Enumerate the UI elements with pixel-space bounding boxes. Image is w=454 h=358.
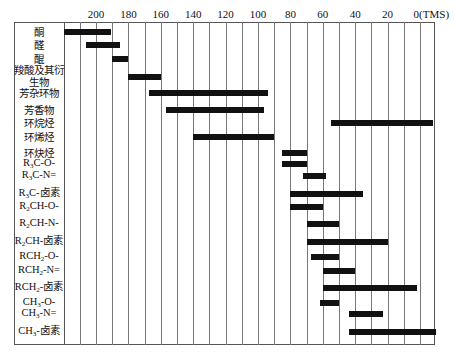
gridline — [112, 22, 113, 345]
category-label: R3C-N= — [14, 169, 64, 184]
gridline — [371, 22, 372, 345]
gridline — [258, 22, 259, 345]
range-bar — [320, 300, 339, 306]
range-bar — [307, 221, 339, 227]
range-bar — [311, 254, 339, 260]
range-bar — [128, 74, 160, 80]
range-bar — [349, 329, 436, 335]
range-bar — [349, 311, 383, 317]
gridline — [128, 22, 129, 345]
range-bar — [323, 285, 417, 291]
category-label: RCH2-卤素 — [14, 281, 64, 296]
gridline — [274, 22, 275, 345]
range-bar — [64, 29, 111, 35]
category-label: 芳香物 — [14, 105, 64, 116]
gridline — [339, 22, 340, 345]
x-tick-label: 60 — [317, 8, 328, 20]
category-label: CH3-卤素 — [14, 325, 64, 340]
gridline — [80, 22, 81, 345]
gridline — [209, 22, 210, 345]
category-label: 芳杂环物 — [14, 88, 64, 99]
gridline — [177, 22, 178, 345]
category-label: 环烷烃 — [14, 118, 64, 129]
gridline — [355, 22, 356, 345]
range-bar — [323, 268, 355, 274]
label-column-divider — [64, 22, 65, 345]
gridline — [420, 22, 421, 345]
range-bar — [166, 107, 265, 113]
x-tick-label: 20 — [382, 8, 393, 20]
x-tick-label: 80 — [285, 8, 296, 20]
gridline — [193, 22, 194, 345]
category-label: RCH2-N= — [14, 264, 64, 279]
x-tick-label: 0(TMS) — [414, 8, 449, 20]
gridline — [242, 22, 243, 345]
range-bar — [282, 150, 306, 156]
gridline — [323, 22, 324, 345]
gridline — [96, 22, 97, 345]
gridline — [145, 22, 146, 345]
category-label: 酮 — [14, 27, 64, 38]
x-tick-label: 200 — [88, 8, 105, 20]
gridline — [404, 22, 405, 345]
gridline — [226, 22, 227, 345]
range-bar — [303, 173, 326, 179]
category-label: R2CH-N- — [14, 217, 64, 232]
x-tick-label: 120 — [217, 8, 234, 20]
chemical-shift-chart: 200180160140120100806040200(TMS) 酮醛醌羧酸及其… — [0, 0, 454, 358]
range-bar — [112, 56, 128, 62]
range-bar — [149, 90, 267, 96]
x-tick-label: 160 — [153, 8, 170, 20]
x-tick-label: 180 — [120, 8, 137, 20]
x-tick-label: 140 — [185, 8, 202, 20]
category-label: R2CH-O- — [14, 200, 64, 215]
range-bar — [193, 134, 274, 140]
range-bar — [282, 161, 306, 167]
x-tick-label: 100 — [250, 8, 267, 20]
range-bar — [86, 42, 120, 48]
category-label: 醌 — [14, 54, 64, 65]
gridline — [388, 22, 389, 345]
category-label: CH3-N= — [14, 307, 64, 322]
x-tick-label: 40 — [350, 8, 361, 20]
category-label: 羧酸及其衍生物 — [14, 65, 64, 89]
gridline — [290, 22, 291, 345]
category-label: R2CH-卤素 — [14, 235, 64, 250]
gridline — [307, 22, 308, 345]
range-bar — [331, 120, 433, 126]
category-label: 醛 — [14, 40, 64, 51]
range-bar — [307, 239, 388, 245]
category-label: RCH2-O- — [14, 250, 64, 265]
range-bar — [290, 191, 363, 197]
range-bar — [290, 204, 322, 210]
category-label: 环烯烃 — [14, 132, 64, 143]
gridline — [161, 22, 162, 345]
